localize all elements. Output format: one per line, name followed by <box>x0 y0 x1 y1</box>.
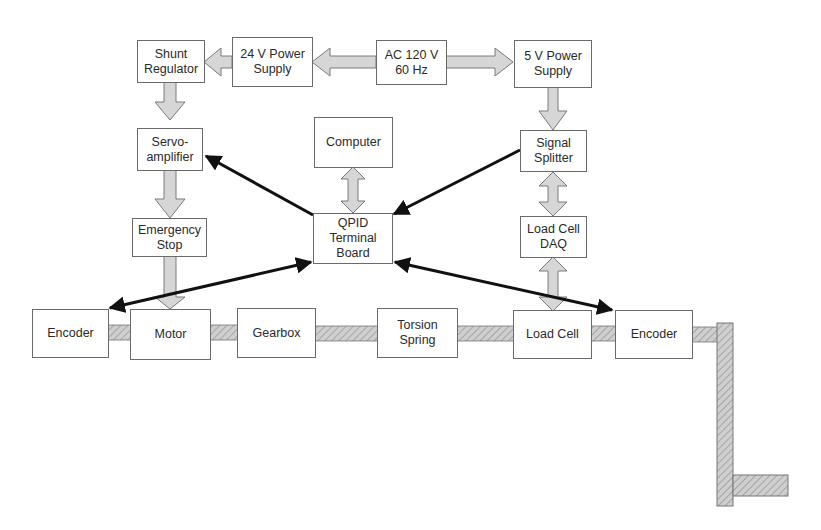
signal-qpid-encoder-right <box>395 262 612 310</box>
power-arrow-ac-to-24v <box>312 48 376 76</box>
block-emergency-stop: Emergency Stop <box>132 218 207 257</box>
block-encoder-right: Encoder <box>615 310 693 359</box>
block-label: Encoder <box>47 326 94 341</box>
signal-splitter-to-qpid <box>394 150 520 214</box>
block-signal-splitter: Signal Splitter <box>520 130 587 172</box>
block-label: Computer <box>326 135 381 150</box>
block-label: Servo- amplifier <box>146 135 193 165</box>
block-servo-amplifier: Servo- amplifier <box>137 128 203 171</box>
signal-qpid-to-servo <box>206 156 313 215</box>
block-label: Shunt Regulator <box>144 47 198 77</box>
block-torsion-spring: Torsion Spring <box>377 308 458 358</box>
power-arrow-daq-loadcell <box>539 257 567 311</box>
block-encoder-left: Encoder <box>32 309 109 358</box>
block-label: Emergency Stop <box>138 223 201 253</box>
block-ac-source: AC 120 V 60 Hz <box>376 40 447 85</box>
block-label: Signal Splitter <box>534 136 573 166</box>
block-24v-power-supply: 24 V Power Supply <box>232 37 313 87</box>
block-label: Motor <box>155 327 187 342</box>
power-arrow-computer-qpid <box>341 167 365 213</box>
power-arrow-shunt-to-servo <box>155 82 185 120</box>
block-load-cell: Load Cell <box>513 310 592 359</box>
block-label: Gearbox <box>253 326 301 341</box>
block-label: QPID Terminal Board <box>329 216 376 261</box>
block-load-cell-daq: Load Cell DAQ <box>520 216 587 258</box>
block-5v-power-supply: 5 V Power Supply <box>514 40 592 88</box>
power-arrow-24v-to-shunt <box>204 48 232 76</box>
block-shunt-regulator: Shunt Regulator <box>137 40 205 83</box>
signal-qpid-encoder-left <box>110 262 311 308</box>
block-computer: Computer <box>314 117 393 168</box>
power-arrows <box>155 48 567 311</box>
block-motor: Motor <box>130 309 211 360</box>
block-label: Encoder <box>631 327 678 342</box>
link-arm <box>717 323 788 506</box>
power-arrow-splitter-daq <box>539 172 567 216</box>
power-arrow-ac-to-5v <box>446 48 513 76</box>
power-arrow-servo-to-estop <box>155 170 185 218</box>
block-gearbox: Gearbox <box>237 308 316 358</box>
power-arrow-estop-to-motor <box>155 256 185 309</box>
block-label: AC 120 V 60 Hz <box>385 48 439 78</box>
block-label: Load Cell DAQ <box>527 222 580 252</box>
block-qpid-terminal-board: QPID Terminal Board <box>313 213 393 264</box>
power-arrow-5v-to-splitter <box>539 87 567 130</box>
block-label: Load Cell <box>526 327 579 342</box>
block-label: 24 V Power Supply <box>240 47 305 77</box>
block-label: Torsion Spring <box>397 318 437 348</box>
block-label: 5 V Power Supply <box>524 49 582 79</box>
